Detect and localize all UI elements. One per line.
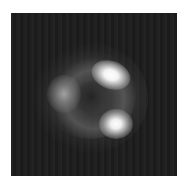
left-dim-image: [47, 75, 81, 113]
lower-right-bright-image: [99, 109, 133, 139]
astronomical-image: [11, 13, 177, 176]
